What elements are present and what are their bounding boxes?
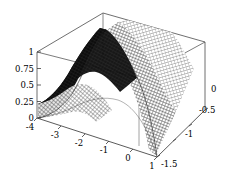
z-tick-label-075: 0.75 [15,64,34,74]
x-tick-label-0: 0 [125,153,130,163]
plot-box-base [37,110,205,157]
x-axis: -4 -3 -2 -1 0 1 [26,118,157,171]
z-tick-label-05: 0.5 [20,80,34,90]
surface-mesh [38,16,205,157]
x-tick-label-m1: -1 [100,145,108,155]
y-tick-label-m1: -1 [185,129,193,139]
z-tick-label-1: 1 [29,47,34,57]
y-tick-label-0: 0 [211,84,216,94]
y-tick-label-m05: -0.5 [199,105,215,115]
x-tick-label-m2: -2 [75,138,83,148]
z-tick-label-025: 0.25 [15,97,34,107]
x-tick-label-m4: -4 [26,122,34,132]
y-tick-label-m15: -1.5 [161,159,177,169]
surface-plot-3d: 1 0.75 0.5 0.25 0 -4 -3 -2 -1 0 1 [0,0,227,187]
x-tick-label-m3: -3 [51,130,59,140]
plot-canvas: 1 0.75 0.5 0.25 0 -4 -3 -2 -1 0 1 [0,0,227,187]
x-tick-label-1: 1 [149,161,154,171]
surface-base-skirt [38,84,112,122]
